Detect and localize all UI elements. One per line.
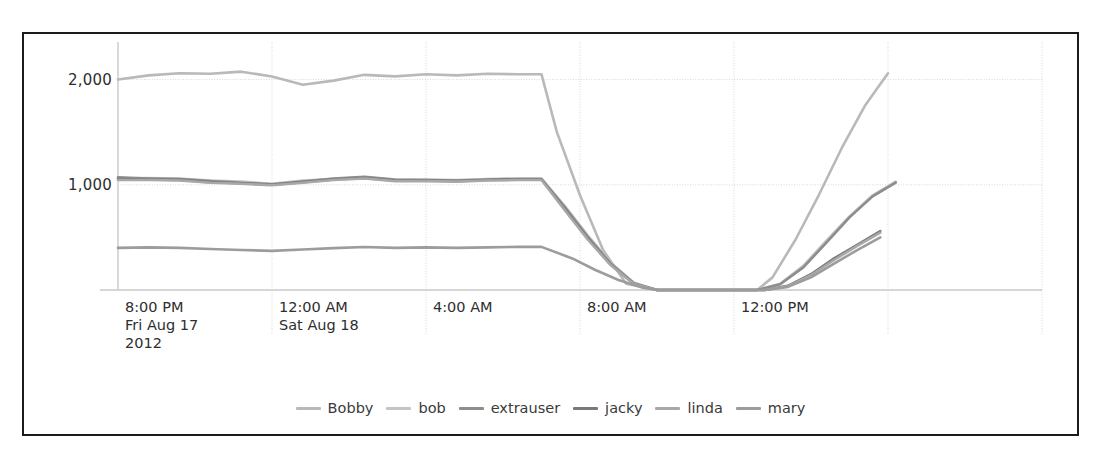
legend-swatch-icon <box>655 407 680 410</box>
x-tick-label: 12:00 PM <box>734 298 809 316</box>
legend-item-mary[interactable]: mary <box>736 400 806 416</box>
legend-label: bob <box>418 400 445 416</box>
legend-item-linda[interactable]: linda <box>655 400 722 416</box>
legend-label: jacky <box>605 400 642 416</box>
x-tick-label: 4:00 AM <box>426 298 493 316</box>
legend-swatch-icon <box>459 407 484 410</box>
legend-label: mary <box>768 400 806 416</box>
legend-swatch-icon <box>736 407 761 410</box>
legend-item-jacky[interactable]: jacky <box>573 400 642 416</box>
legend-label: extrauser <box>491 400 560 416</box>
legend-item-bob[interactable]: bob <box>386 400 445 416</box>
legend-swatch-icon <box>573 407 598 410</box>
x-tick-label: 8:00 PMFri Aug 172012 <box>118 298 198 352</box>
chart-panel: 1,0002,000 8:00 PMFri Aug 17201212:00 AM… <box>22 32 1079 436</box>
legend-swatch-icon <box>386 407 411 410</box>
legend-label: Bobby <box>328 400 374 416</box>
chart-legend: Bobbybobextrauserjackylindamary <box>24 400 1077 416</box>
legend-label: linda <box>687 400 722 416</box>
x-tick-label: 8:00 AM <box>580 298 647 316</box>
legend-item-bobby[interactable]: Bobby <box>296 400 374 416</box>
x-tick-label: 12:00 AMSat Aug 18 <box>272 298 359 334</box>
legend-swatch-icon <box>296 407 321 410</box>
legend-item-extrauser[interactable]: extrauser <box>459 400 560 416</box>
x-axis-tick-labels: 8:00 PMFri Aug 17201212:00 AMSat Aug 184… <box>24 34 1077 434</box>
